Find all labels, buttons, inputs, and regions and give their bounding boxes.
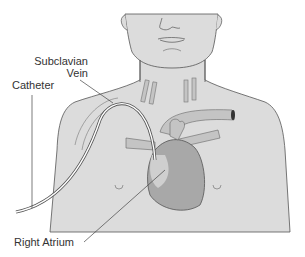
face bbox=[125, 14, 218, 68]
catheter-diagram bbox=[0, 0, 305, 257]
label-subclavian-line1: Subclavian bbox=[32, 55, 88, 67]
label-subclavian-line2: Vein bbox=[32, 67, 88, 79]
label-right-atrium: Right Atrium bbox=[14, 236, 74, 248]
label-subclavian: Subclavian Vein bbox=[32, 55, 88, 79]
label-catheter: Catheter bbox=[12, 79, 54, 91]
